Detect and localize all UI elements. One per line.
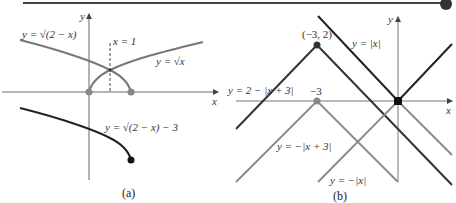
- point-2-minus-3: [128, 157, 135, 164]
- label-2-minus-abs: y = 2 − |x + 3|: [227, 84, 294, 96]
- point-origin-a: [86, 89, 93, 96]
- label-neg-abs-x-plus-3: y = −|x + 3|: [276, 140, 332, 152]
- top-rule: [23, 0, 452, 10]
- x-axis-label-a: x: [211, 95, 217, 107]
- label-sqrt-x: y = √x: [155, 55, 185, 67]
- figure: y x x = 1 y = √(2 − x) y = √x y = √(2 − …: [0, 0, 456, 203]
- point-minus-3: [314, 98, 321, 105]
- point-origin-b: [394, 97, 402, 105]
- label-sqrt-2-minus-x: y = √(2 − x): [21, 28, 77, 41]
- curve-sqrt-2-minus-x: [20, 40, 131, 92]
- curve-sqrt-2-minus-x-minus-3: [20, 108, 131, 160]
- panel-a: y x x = 1 y = √(2 − x) y = √x y = √(2 − …: [2, 10, 218, 200]
- intersection-point: [109, 69, 112, 72]
- curve-abs-x: [318, 16, 452, 101]
- point-2-0: [128, 89, 135, 96]
- x-axis-label-b: x: [445, 104, 451, 116]
- caption-b: (b): [333, 189, 347, 203]
- y-axis-label-a: y: [79, 10, 85, 22]
- label-neg-abs-x: y = −|x|: [329, 174, 366, 186]
- y-axis-label-b: y: [387, 13, 393, 25]
- panel-b: y x y = |x| y = 2 − |x + 3| (−3, 2) −3 y…: [227, 13, 452, 203]
- label-x-eq-1: x = 1: [112, 35, 136, 47]
- caption-a: (a): [122, 186, 135, 200]
- label-peak: (−3, 2): [302, 28, 332, 41]
- label-shifted-curve: y = √(2 − x) − 3: [104, 121, 178, 134]
- curve-2-minus-abs: [236, 45, 452, 185]
- label-minus-3: −3: [310, 85, 322, 97]
- point-peak: [314, 42, 321, 49]
- label-abs-x: y = |x|: [351, 37, 381, 49]
